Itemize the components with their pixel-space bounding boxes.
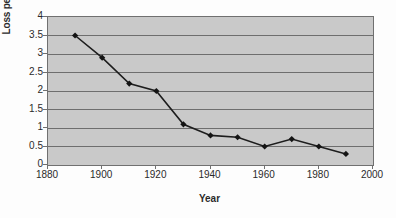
y-tick-label: 1 [16, 122, 43, 132]
y-tick-mark [43, 16, 47, 17]
data-point-marker [262, 143, 268, 149]
data-point-marker [207, 132, 213, 138]
x-tick-mark [101, 165, 102, 169]
y-tick-mark [43, 35, 47, 36]
x-tick-mark [155, 165, 156, 169]
x-tick-mark [318, 165, 319, 169]
y-tick-mark [43, 53, 47, 54]
y-tick-mark [43, 127, 47, 128]
x-tick-label: 1960 [253, 168, 275, 182]
y-tick-mark [43, 72, 47, 73]
y-axis-title: Loss percentage/year [0, 0, 14, 50]
x-tick-label: 1920 [144, 168, 166, 182]
y-tick-label: 4 [16, 11, 43, 21]
x-tick-label: 1900 [90, 168, 112, 182]
data-point-marker [316, 143, 322, 149]
x-tick-mark [372, 165, 373, 169]
x-tick-label: 1940 [198, 168, 220, 182]
data-point-marker [343, 151, 349, 157]
y-tick-mark [43, 146, 47, 147]
x-axis-title: Year [47, 193, 372, 204]
y-tick-label: 3 [16, 48, 43, 58]
y-tick-label: 3.5 [16, 30, 43, 40]
y-tick-label: 2.5 [16, 67, 43, 77]
y-tick-mark [43, 90, 47, 91]
x-tick-mark [210, 165, 211, 169]
x-axis-tick-labels: 1880190019201940196019802000 [0, 168, 396, 182]
data-point-marker [234, 134, 240, 140]
x-tick-label: 1980 [307, 168, 329, 182]
y-tick-label: 2 [16, 85, 43, 95]
x-tick-label: 1880 [36, 168, 58, 182]
y-tick-label: 1.5 [16, 104, 43, 114]
x-tick-label: 2000 [361, 168, 383, 182]
y-tick-mark [43, 109, 47, 110]
x-tick-mark [47, 165, 48, 169]
line-chart-figure: Loss percentage/year 00.511.522.533.54 1… [0, 0, 396, 218]
y-tick-label: 0.5 [16, 141, 43, 151]
y-axis-tick-labels: 00.511.522.533.54 [16, 0, 43, 218]
data-point-marker [289, 136, 295, 142]
x-tick-mark [264, 165, 265, 169]
data-series-loss-percentage [48, 17, 373, 165]
plot-area [47, 16, 374, 166]
